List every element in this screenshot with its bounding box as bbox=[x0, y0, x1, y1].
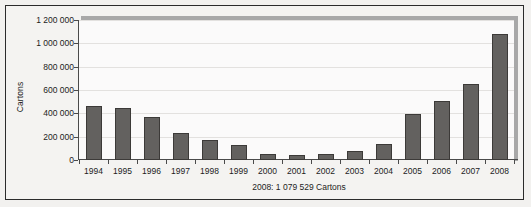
bar bbox=[115, 108, 131, 160]
bar bbox=[86, 106, 102, 160]
bar bbox=[231, 145, 247, 160]
bar bbox=[347, 151, 363, 160]
x-axis-tick-mark bbox=[137, 160, 138, 164]
x-axis-tick-mark bbox=[514, 160, 515, 164]
chart-caption: 2008: 1 079 529 Cartons bbox=[79, 182, 519, 192]
x-axis-tick-mark bbox=[398, 160, 399, 164]
y-axis-tick-labels: 1 200 0001 000 000800 000600 000400 0002… bbox=[24, 15, 74, 163]
bar bbox=[202, 140, 218, 160]
x-axis-tick-mark bbox=[108, 160, 109, 164]
y-axis-tick-label: 1 200 000 bbox=[24, 16, 74, 25]
bar bbox=[173, 133, 189, 160]
y-axis-tick-mark bbox=[74, 160, 78, 161]
bar bbox=[289, 155, 305, 160]
y-axis-tick-label: 1 000 000 bbox=[24, 39, 74, 48]
x-axis-tick-mark bbox=[456, 160, 457, 164]
chart-figure: Cartons 1 200 0001 000 000800 000600 000… bbox=[0, 0, 531, 207]
x-axis-tick-mark bbox=[166, 160, 167, 164]
x-axis-tick-labels: 1994199519961997199819992000200120022003… bbox=[79, 166, 519, 180]
bar bbox=[318, 154, 334, 160]
x-axis-tick-mark bbox=[195, 160, 196, 164]
x-axis-tick-mark bbox=[224, 160, 225, 164]
y-axis-tick-label: 600 000 bbox=[24, 86, 74, 95]
bar bbox=[376, 144, 392, 160]
bar bbox=[492, 34, 508, 160]
x-axis-tick-mark bbox=[485, 160, 486, 164]
bar bbox=[434, 101, 450, 160]
y-axis-tick-label: 400 000 bbox=[24, 109, 74, 118]
x-axis-tick-mark bbox=[253, 160, 254, 164]
x-axis-tick-mark bbox=[79, 160, 80, 164]
bar bbox=[405, 114, 421, 160]
y-axis-tick-label: 800 000 bbox=[24, 62, 74, 71]
bar bbox=[463, 84, 479, 160]
plot-shadow-right bbox=[514, 16, 518, 161]
y-axis-tick-label: 200 000 bbox=[24, 132, 74, 141]
bar-series bbox=[79, 20, 514, 160]
y-axis-tick-label: 0 bbox=[24, 156, 74, 165]
x-axis-tick-mark bbox=[340, 160, 341, 164]
bar bbox=[260, 154, 276, 160]
x-axis-tick-mark bbox=[311, 160, 312, 164]
x-axis-tick-mark bbox=[427, 160, 428, 164]
x-axis-tick-mark bbox=[282, 160, 283, 164]
chart-plot-area: Cartons 1 200 0001 000 000800 000600 000… bbox=[6, 6, 523, 199]
bar bbox=[144, 117, 160, 160]
x-axis-tick-mark bbox=[369, 160, 370, 164]
x-axis-tick-label: 2008 bbox=[480, 166, 520, 176]
